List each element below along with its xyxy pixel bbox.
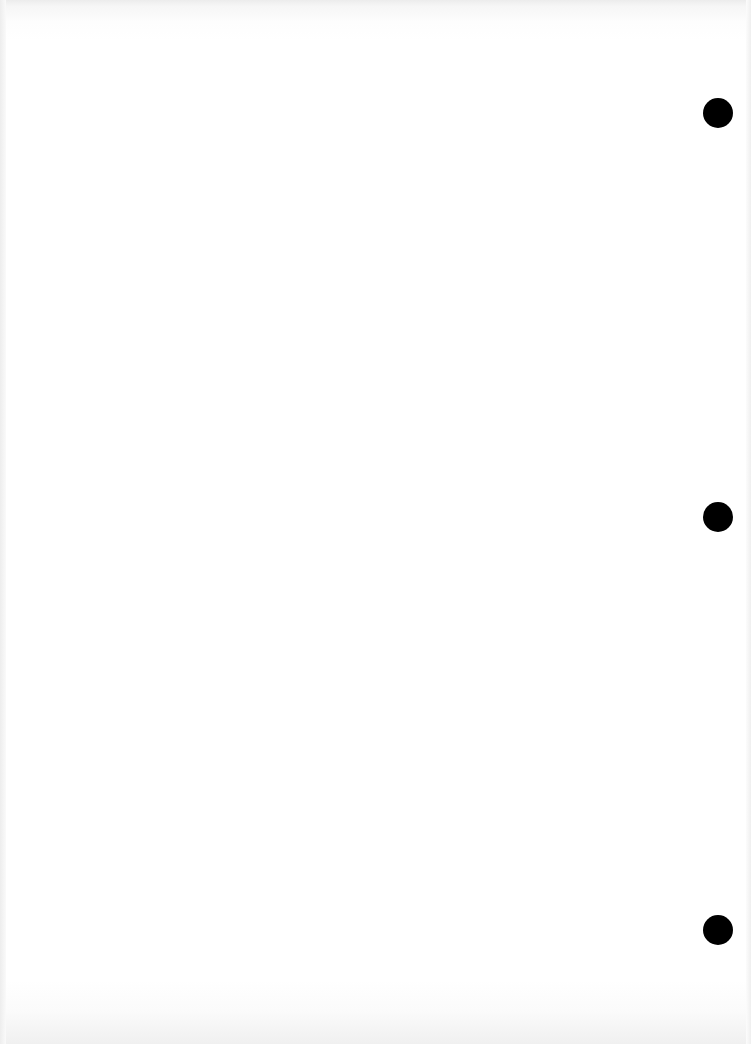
punch-hole-middle xyxy=(703,502,733,532)
scan-edge-right xyxy=(746,0,751,1044)
scan-edge-left xyxy=(0,0,6,1044)
blank-scanned-page xyxy=(0,0,751,1044)
punch-hole-top xyxy=(703,98,733,128)
punch-hole-bottom xyxy=(703,915,733,945)
